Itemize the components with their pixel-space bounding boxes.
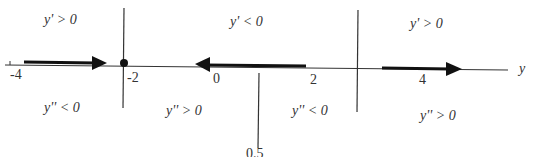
region-label-top: y' < 0 bbox=[230, 14, 263, 30]
region-label-bottom: y'' < 0 bbox=[44, 100, 80, 116]
region-label-bottom: y'' > 0 bbox=[166, 103, 202, 119]
region-label-top: y' > 0 bbox=[410, 16, 443, 32]
region-label-bottom: y'' > 0 bbox=[420, 108, 456, 124]
arrow-left bbox=[205, 65, 306, 66]
arrow-right-2 bbox=[382, 68, 450, 69]
arrowhead-left-icon bbox=[195, 57, 210, 72]
tick-label: -2 bbox=[127, 70, 139, 86]
divider-right bbox=[357, 10, 358, 112]
region-label-bottom: y'' < 0 bbox=[292, 103, 328, 119]
phase-line-diagram bbox=[0, 0, 533, 157]
arrowhead-right-icon bbox=[92, 56, 107, 70]
divider-at-0-5 bbox=[258, 73, 259, 148]
tick-label: 0 bbox=[213, 71, 220, 87]
tick-label: 4 bbox=[419, 72, 426, 88]
tick-label: -4 bbox=[10, 67, 22, 83]
tick-label: 2 bbox=[310, 72, 317, 88]
divider-at-minus-2 bbox=[123, 8, 124, 108]
equilibrium-dot bbox=[120, 59, 128, 67]
tick-label: 0.5 bbox=[246, 146, 264, 157]
arrow-right-1 bbox=[24, 62, 96, 63]
arrowhead-right-icon bbox=[446, 62, 462, 76]
region-label-top: y' > 0 bbox=[44, 12, 77, 28]
axis-label: y bbox=[519, 61, 525, 77]
